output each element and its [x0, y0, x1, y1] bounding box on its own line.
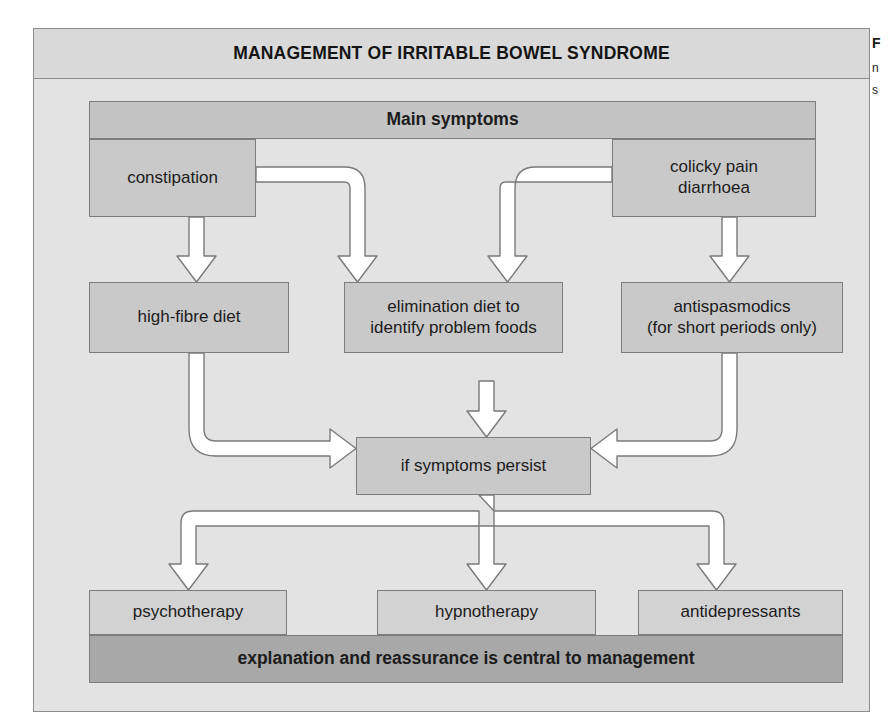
node-antispasmodics: antispasmodics (for short periods only)	[621, 282, 843, 353]
node-antidepressants-label: antidepressants	[680, 602, 800, 623]
node-if-symptoms-persist-label: if symptoms persist	[401, 456, 546, 477]
arrow-high-fibre-to-persist	[189, 353, 356, 468]
side-caption-line-2: s	[872, 79, 888, 102]
node-constipation: constipation	[89, 139, 256, 217]
figure-page: MANAGEMENT OF IRRITABLE BOWEL SYNDROME	[0, 0, 888, 721]
node-if-symptoms-persist: if symptoms persist	[356, 437, 591, 495]
arrow-antispasmodics-to-persist	[591, 353, 737, 468]
node-elimination-diet-label: elimination diet to identify problem foo…	[370, 297, 536, 338]
node-colicky-pain-diarrhoea-label: colicky pain diarrhoea	[670, 157, 758, 198]
side-caption-title: F	[872, 30, 888, 57]
node-hypnotherapy-label: hypnotherapy	[435, 602, 538, 623]
node-antispasmodics-label: antispasmodics (for short periods only)	[647, 297, 817, 338]
arrow-persist-to-hypnotherapy	[467, 526, 506, 590]
node-elimination-diet: elimination diet to identify problem foo…	[344, 282, 563, 353]
side-caption-line-1: n	[872, 57, 888, 80]
node-psychotherapy: psychotherapy	[89, 590, 287, 635]
node-high-fibre-diet-label: high-fibre diet	[137, 307, 240, 328]
node-high-fibre-diet: high-fibre diet	[89, 282, 289, 353]
footer-banner: explanation and reassurance is central t…	[89, 635, 843, 683]
figure-frame: MANAGEMENT OF IRRITABLE BOWEL SYNDROME	[33, 28, 870, 712]
node-psychotherapy-label: psychotherapy	[133, 602, 244, 623]
arrow-persist-fanout-full	[169, 511, 479, 590]
arrow-constipation-to-elimination	[256, 167, 377, 282]
node-colicky-pain-diarrhoea: colicky pain diarrhoea	[612, 139, 816, 217]
node-constipation-label: constipation	[127, 168, 218, 189]
arrow-constipation-to-high-fibre	[177, 217, 216, 282]
arrow-persist-fanout-left	[479, 495, 736, 590]
node-antidepressants: antidepressants	[638, 590, 843, 635]
arrow-colicky-to-elimination	[488, 167, 612, 282]
arrow-elimination-to-persist	[467, 381, 506, 437]
arrow-colicky-to-antispasmodics	[710, 217, 749, 282]
side-caption: F n s	[872, 30, 888, 102]
node-hypnotherapy: hypnotherapy	[377, 590, 596, 635]
main-symptoms-header: Main symptoms	[89, 101, 816, 139]
